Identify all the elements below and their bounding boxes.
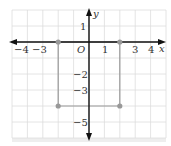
y-axis-up-arrow-icon: [86, 8, 92, 16]
x-tick-label: 4: [148, 44, 154, 55]
plotted-point: [56, 39, 61, 44]
plotted-point: [117, 103, 122, 108]
plotted-point: [56, 103, 61, 108]
plotted-point: [117, 39, 122, 44]
y-axis-label: y: [92, 8, 99, 19]
x-tick-label: −4: [14, 44, 29, 55]
origin-label: O: [77, 44, 85, 55]
x-axis-label: x: [159, 43, 165, 54]
y-tick-label: −3: [73, 85, 88, 96]
coordinate-plane: y x O −4 −3 1 3 4 1 −2 −3 −5: [0, 0, 171, 146]
x-tick-label: 1: [102, 44, 108, 55]
x-tick-label: 3: [132, 44, 138, 55]
y-tick-label: −5: [73, 117, 88, 128]
x-tick-label: −3: [32, 44, 47, 55]
y-tick-label: 1: [80, 21, 86, 32]
y-tick-label: −2: [73, 69, 88, 80]
